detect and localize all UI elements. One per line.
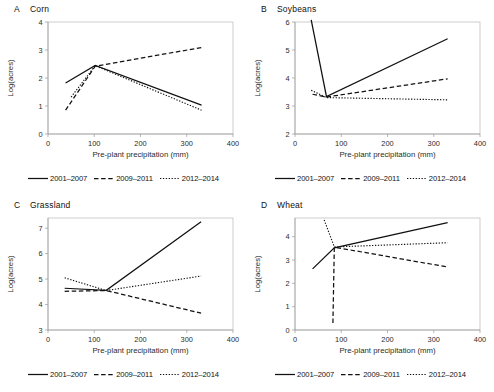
svg-text:400: 400 [474,139,486,148]
svg-text:5: 5 [38,275,42,284]
legend-key-dotted-icon [407,175,427,182]
panel-letter: D [261,200,277,210]
legend-label: 2001–2007 [50,370,87,379]
legend-key-solid-icon [28,175,48,182]
legend-label: 2001–2007 [297,174,334,183]
svg-text:1: 1 [285,302,289,311]
legend-label: 2009–2011 [363,370,400,379]
panel-name: Soybeans [277,4,316,14]
panel-letter: B [261,4,277,14]
legend-label: 2009–2011 [363,174,400,183]
svg-text:Pre-plant precipitation (mm): Pre-plant precipitation (mm) [339,150,436,159]
panel-letter: C [14,200,30,210]
legend-item: 2012–2014 [407,370,466,379]
svg-text:4: 4 [285,232,289,241]
svg-text:1: 1 [38,102,42,111]
panel-letter: A [14,4,30,14]
series-line-dotted [311,90,447,100]
svg-text:100: 100 [335,139,347,148]
svg-text:3: 3 [285,102,289,111]
legend-item: 2001–2007 [28,174,87,183]
svg-text:0: 0 [46,335,50,344]
legend-item: 2001–2007 [275,174,334,183]
svg-text:0: 0 [38,130,42,139]
series-line-dotted [324,220,447,247]
svg-text:200: 200 [134,335,146,344]
series-line-dashed [65,291,201,314]
svg-text:2: 2 [285,130,289,139]
panel-name: Wheat [277,200,303,210]
svg-text:4: 4 [285,74,289,83]
legend-item: 2012–2014 [407,174,466,183]
series-line-dashed [333,247,448,323]
legend-label: 2012–2014 [429,174,466,183]
svg-text:Log(acres): Log(acres) [253,59,262,97]
legend-key-dotted-icon [407,371,427,378]
panel-name: Grassland [30,200,71,210]
svg-text:Pre-plant precipitation (mm): Pre-plant precipitation (mm) [339,346,436,355]
chart-panel-grassland: CGrassland 010020030040034567Pre-plant p… [0,196,247,392]
legend-item: 2012–2014 [160,174,219,183]
svg-text:3: 3 [285,256,289,265]
svg-text:200: 200 [381,139,393,148]
panel-title-grassland: CGrassland [14,200,71,210]
svg-text:2: 2 [285,279,289,288]
svg-text:Pre-plant precipitation (mm): Pre-plant precipitation (mm) [92,150,189,159]
series-line-solid [311,20,447,97]
legend-item: 2001–2007 [275,370,334,379]
svg-text:3: 3 [38,326,42,335]
legend-key-dashed-icon [341,371,361,378]
svg-text:300: 300 [428,335,440,344]
panel-title-corn: ACorn [14,4,49,14]
legend-key-solid-icon [275,175,295,182]
legend-key-dashed-icon [94,371,114,378]
svg-text:0: 0 [46,139,50,148]
legend-grassland: 2001–20072009–20112012–2014 [0,366,247,382]
legend-soybeans: 2001–20072009–20112012–2014 [247,170,494,186]
legend-key-dashed-icon [94,175,114,182]
legend-item: 2009–2011 [94,174,153,183]
plot-area-soybeans: 010020030040023456Pre-plant precipitatio… [247,14,494,164]
svg-text:100: 100 [88,335,100,344]
plot-area-grassland: 010020030040034567Pre-plant precipitatio… [0,210,247,360]
chart-panel-wheat: DWheat 010020030040001234Pre-plant preci… [247,196,494,392]
svg-text:Log(acres): Log(acres) [253,255,262,293]
legend-corn: 2001–20072009–20112012–2014 [0,170,247,186]
svg-text:0: 0 [293,139,297,148]
legend-label: 2001–2007 [50,174,87,183]
legend-key-solid-icon [275,371,295,378]
legend-label: 2009–2011 [116,174,153,183]
legend-wheat: 2001–20072009–20112012–2014 [247,366,494,382]
panel-title-wheat: DWheat [261,200,303,210]
legend-key-dashed-icon [341,175,361,182]
figure-panel-grid: ACorn 010020030040001234Pre-plant precip… [0,0,494,392]
series-line-dashed [313,79,448,97]
svg-text:0: 0 [293,335,297,344]
svg-text:300: 300 [428,139,440,148]
svg-text:4: 4 [38,18,42,27]
legend-label: 2012–2014 [182,370,219,379]
plot-area-wheat: 010020030040001234Pre-plant precipitatio… [247,210,494,360]
svg-text:Log(acres): Log(acres) [6,59,15,97]
legend-item: 2009–2011 [341,174,400,183]
panel-title-soybeans: BSoybeans [261,4,316,14]
series-line-dashed [66,47,202,110]
svg-text:3: 3 [38,46,42,55]
svg-text:Log(acres): Log(acres) [6,255,15,293]
svg-text:100: 100 [335,335,347,344]
svg-text:2: 2 [38,74,42,83]
svg-text:100: 100 [88,139,100,148]
svg-text:300: 300 [181,335,193,344]
svg-text:200: 200 [381,335,393,344]
legend-key-dotted-icon [160,371,180,378]
legend-key-solid-icon [28,371,48,378]
series-line-solid [66,65,202,105]
chart-panel-soybeans: BSoybeans 010020030040023456Pre-plant pr… [247,0,494,196]
chart-panel-corn: ACorn 010020030040001234Pre-plant precip… [0,0,247,196]
svg-text:5: 5 [285,46,289,55]
svg-text:200: 200 [134,139,146,148]
svg-text:7: 7 [38,224,42,233]
legend-key-dotted-icon [160,175,180,182]
svg-text:0: 0 [285,326,289,335]
legend-label: 2012–2014 [429,370,466,379]
